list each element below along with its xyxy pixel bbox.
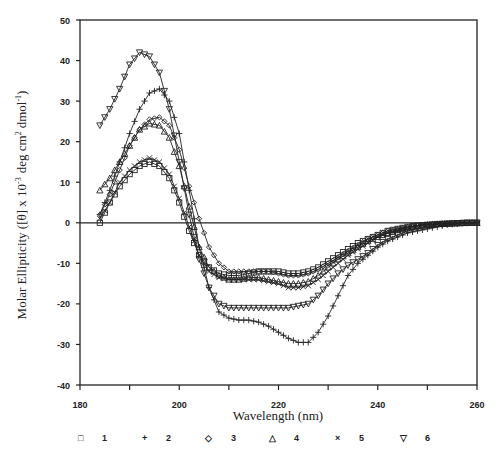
x-axis-title: Wavelength (nm) — [233, 408, 323, 423]
x-tick-label: 240 — [370, 400, 385, 410]
y-tick-label: -20 — [57, 299, 70, 309]
legend-symbol-triangle-down-icon: ▽ — [399, 433, 408, 443]
y-tick-label: 0 — [65, 218, 70, 228]
y-axis-ticks: 50403020100-10-20-30-40 — [57, 16, 80, 391]
legend-symbol-diamond-icon: ◇ — [204, 433, 213, 443]
y-axis-title-end: dmol — [14, 101, 29, 128]
data-series — [97, 50, 480, 346]
y-axis-title-mid: deg cm — [14, 135, 29, 173]
y-tick-label: 10 — [60, 178, 70, 188]
cd-spectrum-chart: 180200220240260 50403020100-10-20-30-40 … — [0, 0, 501, 459]
legend-item-1: □ 1 — [78, 433, 107, 443]
legend-item-6: ▽ 6 — [399, 433, 430, 443]
y-axis-title-sup1: -3 — [14, 177, 23, 184]
svg-text:Molar Ellipticity ([θ] x 10-3d: Molar Ellipticity ([θ] x 10-3deg cm2dmol… — [14, 91, 29, 320]
legend-label: 5 — [359, 433, 364, 443]
legend-symbol-plus-icon: + — [142, 433, 147, 443]
series-3 — [97, 115, 479, 278]
legend-symbol-triangle-up-icon: △ — [268, 433, 277, 443]
x-tick-label: 180 — [72, 400, 87, 410]
y-tick-label: -10 — [57, 259, 70, 269]
y-tick-label: 20 — [60, 137, 70, 147]
x-tick-label: 260 — [469, 400, 484, 410]
legend-label: 2 — [166, 433, 171, 443]
legend-symbol-x-icon: × — [335, 433, 340, 443]
legend-label: 3 — [231, 433, 236, 443]
legend-label: 4 — [294, 433, 299, 443]
y-tick-label: -40 — [57, 381, 70, 391]
y-axis-title: Molar Ellipticity ([θ] x 10-3deg cm2dmol… — [14, 91, 29, 320]
legend-item-2: + 2 — [142, 433, 171, 443]
legend-label: 1 — [102, 433, 107, 443]
y-axis-title-close: ) — [14, 91, 29, 95]
x-tick-label: 200 — [172, 400, 187, 410]
legend: □ 1 + 2 ◇ 3 △ 4 × 5 ▽ 6 — [78, 433, 430, 443]
y-axis-title-sup2: 2 — [14, 131, 23, 135]
series-1 — [97, 159, 479, 278]
legend-item-4: △ 4 — [268, 433, 299, 443]
y-axis-title-main: Molar Ellipticity ([θ] x 10 — [14, 184, 29, 319]
legend-item-3: ◇ 3 — [204, 433, 236, 443]
x-axis-ticks: 180200220240260 — [72, 385, 484, 410]
y-tick-label: 30 — [60, 97, 70, 107]
legend-symbol-square-icon: □ — [78, 433, 84, 443]
y-tick-label: -30 — [57, 340, 70, 350]
y-tick-label: 40 — [60, 56, 70, 66]
series-4 — [97, 120, 480, 286]
legend-label: 6 — [425, 433, 430, 443]
y-tick-label: 50 — [60, 16, 70, 26]
y-axis-title-sup3: -1 — [14, 95, 23, 102]
legend-item-5: × 5 — [335, 433, 364, 443]
